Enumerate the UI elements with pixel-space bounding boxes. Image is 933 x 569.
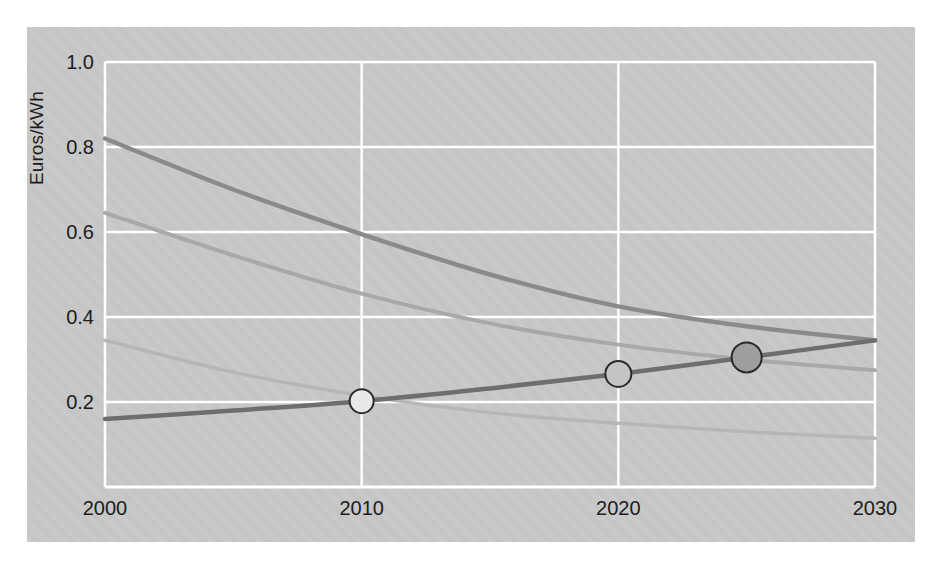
grid-parity-marker-2025[interactable] — [732, 342, 762, 372]
series-line-declining-cost-curve-medium — [105, 213, 875, 370]
chart-page: Euros/kWh 0.20.40.60.81.0 20002010202020… — [0, 0, 933, 569]
grid-parity-marker-2010[interactable] — [350, 389, 374, 413]
plot-canvas — [0, 0, 933, 569]
series-line-declining-cost-curve-dark — [105, 139, 875, 341]
series-lines — [105, 139, 875, 439]
grid-parity-marker-2020[interactable] — [605, 361, 631, 387]
